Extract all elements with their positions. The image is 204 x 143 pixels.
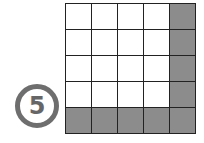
empty-cell — [144, 30, 169, 55]
empty-cell — [144, 56, 169, 81]
empty-cell — [66, 30, 91, 55]
empty-cell — [144, 82, 169, 107]
circled-number-label: 5 — [15, 84, 59, 128]
empty-cell — [118, 4, 143, 29]
empty-cell — [92, 4, 117, 29]
shaded-square-grid — [65, 3, 196, 134]
empty-cell — [118, 30, 143, 55]
shaded-cell — [170, 56, 195, 81]
shaded-cell — [92, 108, 117, 133]
empty-cell — [118, 82, 143, 107]
shaded-cell — [144, 108, 169, 133]
shaded-cell — [170, 30, 195, 55]
shaded-cell — [170, 108, 195, 133]
empty-cell — [66, 82, 91, 107]
empty-cell — [66, 56, 91, 81]
empty-cell — [66, 4, 91, 29]
empty-cell — [118, 56, 143, 81]
empty-cell — [92, 30, 117, 55]
empty-cell — [144, 4, 169, 29]
empty-cell — [92, 56, 117, 81]
shaded-cell — [118, 108, 143, 133]
shaded-cell — [170, 4, 195, 29]
shaded-cell — [170, 82, 195, 107]
label-number: 5 — [29, 94, 46, 118]
empty-cell — [92, 82, 117, 107]
shaded-cell — [66, 108, 91, 133]
